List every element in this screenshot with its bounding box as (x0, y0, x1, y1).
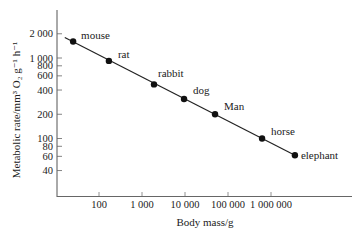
x-ticks: 1001 00010 000100 0001 000 000 (91, 192, 292, 210)
x-tick-label: 10 000 (171, 199, 200, 210)
point-label-mouse: mouse (81, 29, 110, 41)
data-point-horse (259, 135, 265, 141)
data-point-mouse (70, 38, 76, 44)
x-axis-title: Body mass/g (176, 216, 234, 228)
x-tick-label: 1 000 000 (250, 199, 292, 210)
point-label-horse: horse (271, 125, 295, 137)
y-tick-label: 60 (43, 151, 54, 162)
x-tick-label: 100 (91, 199, 107, 210)
y-tick-label: 400 (37, 85, 53, 96)
data-point-rabbit (151, 81, 157, 87)
data-point-rat (106, 58, 112, 64)
chart: 1001 00010 000100 0001 000 000 2 0001 00… (0, 0, 357, 234)
point-label-dog: dog (193, 84, 210, 96)
data-points: mouseratrabbitdogManhorseelephant (70, 29, 338, 162)
y-axis-title: Metabolic rate/mm³ O₂ g⁻¹ h⁻¹ (10, 42, 22, 179)
point-label-rabbit: rabbit (158, 67, 184, 79)
point-label-rat: rat (118, 48, 130, 60)
y-tick-label: 600 (37, 70, 53, 81)
data-point-dog (181, 96, 187, 102)
point-label-man: Man (224, 100, 245, 112)
data-point-elephant (292, 152, 298, 158)
y-tick-label: 200 (37, 109, 53, 120)
y-tick-label: 40 (43, 165, 54, 176)
point-label-elephant: elephant (301, 149, 338, 161)
x-tick-label: 1 000 (130, 199, 154, 210)
data-point-man (212, 111, 218, 117)
x-tick-label: 100 000 (211, 199, 245, 210)
y-tick-label: 2 000 (29, 28, 53, 39)
